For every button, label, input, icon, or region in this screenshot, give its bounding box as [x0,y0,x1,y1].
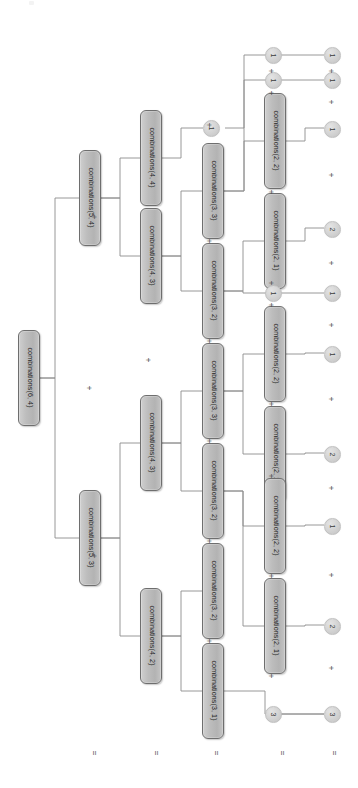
tree-node-label: combinations(4, 4) [147,128,154,188]
plus-operator: + [204,236,214,246]
plus-operator: + [204,120,214,130]
tree-node-call[interactable]: combinations(5, 4) [79,150,101,246]
plus-operator: + [89,212,99,222]
plus-operator: + [326,483,336,493]
connector-line [101,158,140,198]
connector-line [286,525,324,526]
plus-operator: + [326,394,336,404]
connector-line [286,625,324,626]
tree-node-value[interactable]: 2 [324,446,341,463]
tree-node-call[interactable]: combinations(4, 3) [140,395,162,491]
plus-operator: + [326,320,336,330]
tree-node-call[interactable]: combinations(4, 2) [140,588,162,684]
connector-line [224,141,264,191]
tree-node-call[interactable]: combinations(3, 2) [202,543,224,639]
connector-line [286,228,324,241]
tree-node-value[interactable]: 1 [324,518,341,535]
equals-operator: = [90,748,100,758]
tree-node-value-label: 1 [329,79,336,83]
plus-operator: + [204,536,214,546]
connector-line [286,453,324,454]
connector-line [162,128,203,158]
plus-operator: + [266,88,276,98]
connector-line [40,378,79,538]
plus-operator: + [143,355,153,365]
tree-node-value-label: 2 [329,228,336,232]
connector-line [224,491,264,626]
tree-node-value-label: 1 [329,54,336,58]
connector-line [162,256,202,291]
plus-operator: + [266,399,276,409]
tree-node-value-label: 1 [329,128,336,132]
plus-operator: + [266,278,276,288]
tree-node-value[interactable]: 1 [324,121,341,138]
tree-node-label: combinations(3, 2) [209,561,216,621]
tree-node-call[interactable]: combinations(2, 2) [264,306,286,402]
tree-node-value-label: 1 [329,353,336,357]
tree-node-value[interactable]: 3 [265,706,282,723]
tree-node-call[interactable]: combinations(4, 4) [140,110,162,206]
plus-operator: + [266,671,276,681]
tree-node-call[interactable]: combinations(3, 3) [202,143,224,239]
tree-node-value-label: 1 [270,54,277,58]
tree-node-call[interactable]: combinations(6, 4) [18,330,40,426]
connector-line [162,443,202,491]
tree-node-label: combinations(4, 3) [147,226,154,286]
equals-operator: = [278,748,288,758]
tree-node-value[interactable]: 1 [324,47,341,64]
tree-node-call[interactable]: combinations(5, 3) [79,490,101,586]
tree-node-value-label: 2 [329,453,336,457]
tree-node-value[interactable]: 2 [324,221,341,238]
tree-node-label: combinations(2, 1) [271,596,278,656]
tree-node-label: combinations(3, 3) [209,361,216,421]
tree-node-call[interactable]: combinations(4, 3) [140,208,162,304]
tree-node-label: combinations(2, 2) [271,496,278,556]
plus-operator: + [326,66,336,76]
tree-node-call[interactable]: combinations(3, 2) [202,443,224,539]
plus-operator: + [84,383,94,393]
plus-operator: + [266,471,276,481]
tree-node-value[interactable]: 1 [265,47,282,64]
plus-operator: + [89,551,99,561]
tree-node-call[interactable]: combinations(2, 1) [264,578,286,674]
tree-node-value-label: 2 [329,625,336,629]
plus-operator: + [266,187,276,197]
connector-line [286,128,324,141]
plus-operator: + [326,570,336,580]
tree-node-value[interactable]: 1 [324,346,341,363]
plus-operator: + [204,336,214,346]
tree-node-call[interactable]: combinations(2, 1) [264,193,286,289]
connector-line [162,636,202,691]
tree-node-label: combinations(6, 4) [25,348,32,408]
tree-node-value[interactable]: 1 [324,285,341,302]
plus-operator: + [266,66,276,76]
tree-node-value[interactable]: 2 [324,618,341,635]
connector-line [224,241,264,291]
recursion-tree-diagram: combinations(6, 4)combinations(5, 4)comb… [0,0,358,788]
connector-line [101,538,140,636]
tree-node-call[interactable]: combinations(3, 1) [202,643,224,739]
plus-operator: + [326,97,336,107]
tree-node-call[interactable]: combinations(2, 2) [264,478,286,574]
tree-node-value-label: 3 [270,713,277,717]
tree-node-value-label: 1 [270,292,277,296]
connector-line [162,191,202,256]
tree-node-value-label: 1 [270,79,277,83]
connector-line [101,198,140,256]
plus-operator: + [326,170,336,180]
tree-node-label: combinations(4, 3) [147,413,154,473]
tree-node-call[interactable]: combinations(2, 2) [264,93,286,189]
connector-line [224,391,264,454]
tree-node-value[interactable]: 3 [324,706,341,723]
tree-node-call[interactable]: combinations(3, 2) [202,243,224,339]
tree-node-label: combinations(3, 2) [209,461,216,521]
connector-line [224,354,264,391]
tree-node-label: combinations(2, 2) [271,324,278,384]
connector-line [40,198,79,378]
tree-node-label: combinations(2, 2) [271,111,278,171]
tree-node-label: combinations(3, 1) [209,661,216,721]
tree-node-call[interactable]: combinations(3, 3) [202,343,224,439]
plus-operator: + [204,636,214,646]
connector-line [101,443,140,538]
tree-node-value-label: 1 [329,292,336,296]
